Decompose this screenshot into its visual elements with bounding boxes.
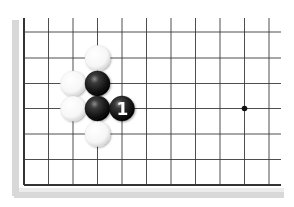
star-points: [242, 106, 248, 112]
black-stone: [85, 71, 110, 96]
white-stone: [61, 71, 86, 96]
white-stone: [85, 122, 110, 147]
black-stone: [85, 96, 110, 121]
star-point-icon: [242, 106, 248, 112]
white-stone: [85, 46, 110, 71]
go-board-diagram: 1: [0, 0, 294, 207]
white-stone: [61, 96, 86, 121]
stones: 1: [61, 46, 135, 147]
bottom-shadow: [14, 192, 284, 198]
left-shadow: [12, 20, 19, 196]
black-stone-1: 1: [110, 96, 135, 121]
move-number-label: 1: [117, 99, 129, 119]
